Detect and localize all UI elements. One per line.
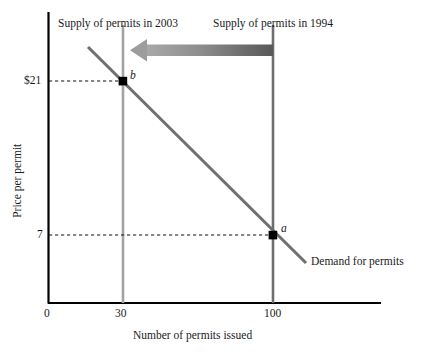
point-a-marker	[269, 231, 278, 240]
x-axis-tick-30: 30	[115, 308, 127, 320]
x-axis-tick-100: 100	[264, 308, 281, 320]
x-axis-tick-0: 0	[44, 308, 50, 320]
x-axis-label: Number of permits issued	[133, 330, 252, 342]
point-b-marker	[119, 77, 128, 86]
permit-market-chart: Supply of permits in 2003 Supply of perm…	[0, 0, 426, 355]
chart-canvas	[0, 0, 426, 355]
supply-2003-label: Supply of permits in 2003	[58, 18, 178, 30]
demand-curve-label: Demand for permits	[311, 256, 404, 268]
point-b-label: b	[130, 70, 136, 82]
y-axis-label: Price per permit	[12, 136, 24, 226]
y-axis-tick-21: $21	[24, 75, 41, 87]
supply-shift-arrow	[130, 39, 273, 62]
supply-1994-label: Supply of permits in 1994	[213, 18, 333, 30]
point-a-label: a	[281, 223, 287, 235]
y-axis-tick-7: 7	[37, 229, 43, 241]
